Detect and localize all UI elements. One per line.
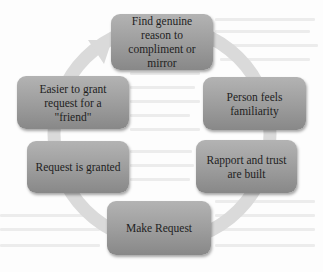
- cycle-node-easier-to-grant: Easier to grant request for a "friend": [17, 76, 129, 129]
- node-label: Request is granted: [36, 160, 121, 174]
- node-label: Easier to grant request for a "friend": [23, 82, 123, 124]
- cycle-node-find-reason: Find genuine reason to compliment or mir…: [111, 14, 213, 70]
- node-label: Rapport and trust are built: [202, 153, 291, 181]
- cycle-node-person-feels-familiarity: Person feels familiarity: [203, 77, 306, 130]
- cycle-node-request-granted: Request is granted: [27, 141, 129, 193]
- cycle-node-make-request: Make Request: [107, 201, 211, 255]
- node-label: Make Request: [126, 221, 192, 235]
- node-label: Person feels familiarity: [209, 90, 300, 118]
- cycle-node-rapport-trust: Rapport and trust are built: [196, 140, 297, 193]
- node-label: Find genuine reason to compliment or mir…: [117, 14, 207, 70]
